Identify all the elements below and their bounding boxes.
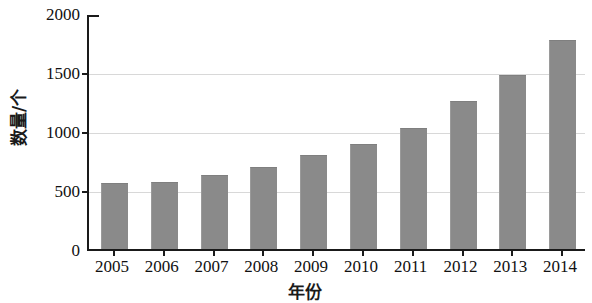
x-axis-tick-label: 2012	[444, 257, 478, 277]
bar	[151, 182, 178, 249]
y-axis-top-tick	[89, 15, 99, 17]
x-axis-tick	[312, 249, 314, 256]
y-axis-tick-label: 2000	[46, 5, 80, 25]
x-axis-tick-label: 2006	[145, 257, 179, 277]
bar	[499, 75, 526, 249]
y-axis-tick	[82, 132, 89, 134]
x-axis-tick-label: 2009	[294, 257, 328, 277]
x-axis-tick	[561, 249, 563, 256]
x-axis-tick-label: 2007	[195, 257, 229, 277]
y-axis-tick	[82, 191, 89, 193]
x-axis-tick	[412, 249, 414, 256]
x-axis-tick-label: 2014	[543, 257, 577, 277]
x-axis-tick	[462, 249, 464, 256]
x-axis-tick	[113, 249, 115, 256]
x-axis-tick	[213, 249, 215, 256]
y-axis-tick-label: 1000	[46, 123, 80, 143]
x-axis-tick	[511, 249, 513, 256]
x-axis-tick	[163, 249, 165, 256]
x-axis-tick-label: 2011	[394, 257, 427, 277]
bar	[250, 167, 277, 249]
bar	[201, 175, 228, 249]
plot-area: 0500100015002000	[87, 15, 585, 251]
x-axis-tick	[362, 249, 364, 256]
bar	[400, 128, 427, 249]
x-axis-tick-label: 2008	[244, 257, 278, 277]
bar	[450, 101, 477, 249]
bar	[101, 183, 128, 249]
x-axis-tick-label: 2010	[344, 257, 378, 277]
y-axis-tick	[82, 73, 89, 75]
y-axis-title: 数量/个	[5, 88, 30, 148]
x-axis-tick-label: 2005	[95, 257, 129, 277]
bar	[300, 155, 327, 249]
y-axis-tick-label: 500	[55, 182, 81, 202]
y-axis-tick-label: 1500	[46, 64, 80, 84]
x-axis-tick-label: 2013	[493, 257, 527, 277]
bar	[549, 40, 576, 249]
y-axis-tick-label: 0	[72, 241, 81, 261]
bar	[350, 144, 377, 249]
x-axis-title: 年份	[0, 278, 592, 303]
x-axis-tick	[262, 249, 264, 256]
